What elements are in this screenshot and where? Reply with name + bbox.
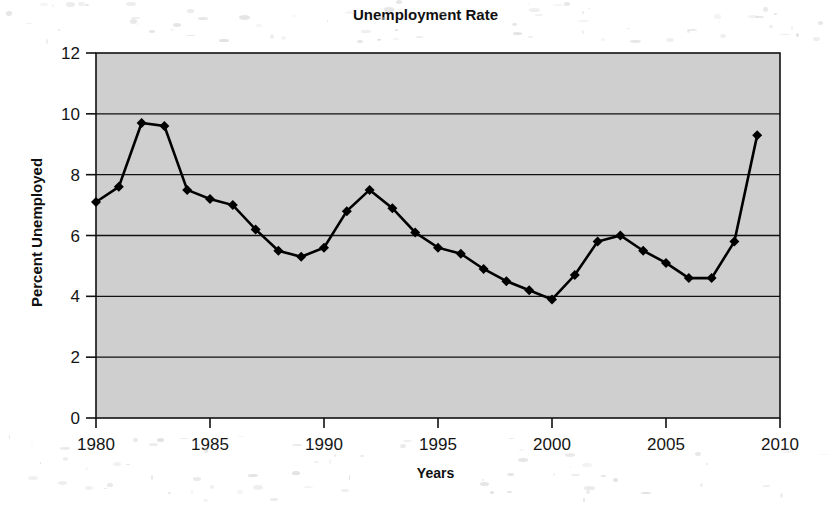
svg-text:4: 4 — [71, 287, 80, 306]
scan-speck — [437, 11, 447, 14]
svg-text:8: 8 — [71, 166, 80, 185]
scan-speck — [416, 36, 423, 38]
scan-speck — [210, 485, 214, 489]
scan-speck — [149, 443, 158, 446]
scan-speck — [748, 15, 758, 18]
svg-text:2010: 2010 — [761, 435, 799, 454]
scan-speck — [700, 483, 703, 487]
scan-speck — [518, 458, 528, 462]
scan-speck — [586, 490, 590, 494]
scan-speck — [52, 4, 54, 6]
scan-speck — [584, 486, 595, 489]
scan-speck — [378, 39, 381, 41]
scan-speck — [719, 21, 720, 24]
scan-speck — [85, 486, 93, 490]
scan-speck — [9, 435, 10, 439]
svg-text:2000: 2000 — [533, 435, 571, 454]
scan-speck — [86, 446, 90, 448]
scan-speck — [304, 486, 313, 487]
scan-speck — [512, 23, 517, 26]
scan-speck — [314, 461, 319, 463]
scan-speck — [239, 15, 250, 20]
scan-speck — [126, 2, 135, 7]
scan-speck — [329, 459, 332, 463]
x-axis-ticks: 1980198519901995200020052010 — [77, 418, 799, 454]
scan-speck — [40, 462, 41, 464]
scan-speck — [107, 483, 112, 487]
scan-speck — [774, 13, 777, 16]
scan-speck — [191, 490, 193, 494]
scan-speck — [46, 39, 48, 44]
scan-speck — [384, 7, 393, 12]
svg-text:1985: 1985 — [191, 435, 229, 454]
scan-speck — [393, 38, 399, 40]
scan-speck — [819, 454, 829, 455]
scan-speck — [149, 30, 155, 33]
scan-speck — [403, 440, 412, 442]
scan-speck — [583, 498, 585, 502]
scan-speck — [528, 4, 529, 5]
scan-speck — [769, 25, 773, 27]
scan-speck — [630, 40, 641, 43]
scan-speck — [292, 471, 300, 475]
scan-speck — [193, 477, 201, 481]
scan-speck — [565, 453, 575, 456]
scan-speck — [780, 493, 783, 498]
scan-speck — [360, 455, 364, 457]
svg-text:12: 12 — [61, 44, 80, 63]
scan-speck — [60, 447, 70, 449]
scan-speck — [664, 446, 669, 449]
scan-speck — [203, 499, 208, 502]
scan-speck — [219, 39, 230, 41]
scan-speck — [157, 438, 164, 442]
scan-speck — [6, 11, 12, 16]
scan-speck — [582, 463, 592, 468]
scan-speck — [791, 26, 793, 30]
y-axis-ticks: 024681012 — [61, 44, 96, 428]
scan-speck — [553, 4, 563, 5]
svg-text:10: 10 — [61, 105, 80, 124]
scan-speck — [582, 30, 584, 34]
scan-speck — [763, 7, 768, 12]
scan-speck — [198, 17, 207, 20]
svg-text:2: 2 — [71, 348, 80, 367]
scan-speck — [204, 448, 208, 453]
scan-speck — [270, 498, 278, 501]
scan-speck — [714, 14, 722, 19]
svg-text:1990: 1990 — [305, 435, 343, 454]
scan-speck — [513, 32, 522, 35]
scan-speck — [507, 473, 514, 476]
svg-text:0: 0 — [71, 409, 80, 428]
scan-speck — [570, 466, 571, 469]
scan-speck — [199, 444, 200, 446]
scan-speck — [601, 475, 605, 477]
scan-speck — [341, 489, 349, 492]
scan-speck — [85, 4, 89, 5]
scan-speck — [396, 0, 402, 3]
scan-speck — [564, 2, 570, 6]
scan-speck — [253, 485, 263, 490]
scan-speck — [378, 17, 387, 19]
svg-text:1995: 1995 — [419, 435, 457, 454]
scan-speck — [706, 463, 708, 465]
scan-speck — [763, 485, 771, 487]
scan-speck — [720, 34, 725, 38]
scan-speck — [113, 462, 121, 466]
svg-text:6: 6 — [71, 227, 80, 246]
scan-speck — [529, 8, 540, 12]
scan-speck — [582, 11, 584, 14]
scan-speck — [31, 442, 33, 443]
svg-text:1980: 1980 — [77, 435, 115, 454]
scan-speck — [256, 24, 262, 26]
scan-speck — [687, 30, 690, 34]
scan-speck — [361, 30, 371, 33]
scan-speck — [133, 438, 138, 442]
scan-speck — [345, 11, 354, 14]
scan-speck — [327, 20, 328, 21]
scan-speck — [40, 3, 48, 6]
scan-speck — [63, 457, 68, 460]
